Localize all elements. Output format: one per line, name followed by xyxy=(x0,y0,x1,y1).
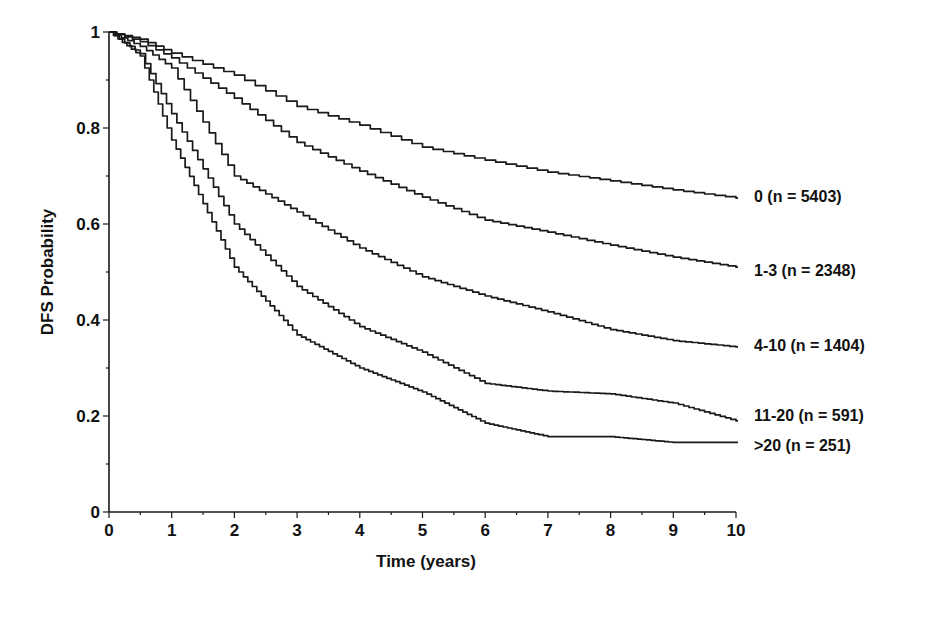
x-tick-label: 8 xyxy=(606,521,615,540)
axes-group: 00.20.40.60.81 012345678910 xyxy=(76,23,745,540)
x-tick-label: 10 xyxy=(727,521,746,540)
x-tick-label: 9 xyxy=(669,521,678,540)
x-tick-label: 6 xyxy=(480,521,489,540)
series-label: 11-20 (n = 591) xyxy=(754,407,864,424)
survival-curve xyxy=(109,32,738,442)
y-axis-title: DFS Probability xyxy=(38,208,57,335)
series-label: 4-10 (n = 1404) xyxy=(754,337,865,354)
x-tick-label: 7 xyxy=(543,521,552,540)
x-tick-label: 0 xyxy=(104,521,113,540)
x-ticks: 012345678910 xyxy=(104,512,745,540)
survival-curve xyxy=(109,32,738,347)
x-tick-label: 5 xyxy=(418,521,427,540)
y-ticks: 00.20.40.60.81 xyxy=(76,23,109,522)
series-label: 0 (n = 5403) xyxy=(754,188,842,205)
x-tick-label: 3 xyxy=(292,521,301,540)
x-tick-label: 4 xyxy=(355,521,365,540)
survival-curve xyxy=(109,32,738,267)
y-tick-label: 0.8 xyxy=(76,119,100,138)
y-tick-label: 0.6 xyxy=(76,215,100,234)
y-tick-label: 0.4 xyxy=(76,311,100,330)
x-tick-label: 1 xyxy=(167,521,176,540)
dfs-kaplan-meier-chart: 00.20.40.60.81 012345678910 DFS Probabil… xyxy=(0,0,935,618)
y-tick-label: 1 xyxy=(91,23,100,42)
y-tick-label: 0.2 xyxy=(76,407,100,426)
y-tick-label: 0 xyxy=(91,503,100,522)
curves-group xyxy=(109,32,738,442)
x-tick-label: 2 xyxy=(230,521,239,540)
series-labels: 0 (n = 5403)1-3 (n = 2348)4-10 (n = 1404… xyxy=(754,188,865,454)
series-label: >20 (n = 251) xyxy=(754,437,851,454)
x-axis-title: Time (years) xyxy=(376,552,476,571)
survival-curve xyxy=(109,32,738,421)
series-label: 1-3 (n = 2348) xyxy=(754,262,856,279)
